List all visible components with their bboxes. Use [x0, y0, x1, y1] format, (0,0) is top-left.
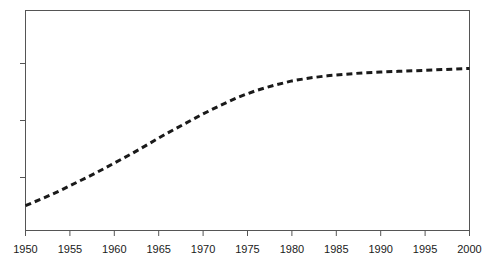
data-series-line: [26, 68, 470, 205]
x-tick-label-1980: 1980: [280, 243, 304, 255]
x-tick-label-1960: 1960: [102, 243, 126, 255]
x-tick-label-1975: 1975: [235, 243, 259, 255]
x-axis-ticks: [26, 231, 470, 237]
x-tick-label-1965: 1965: [146, 243, 170, 255]
x-tick-label-1955: 1955: [58, 243, 82, 255]
plot-frame: [26, 11, 470, 231]
x-tick-label-1990: 1990: [368, 243, 392, 255]
x-tick-label-2000: 2000: [457, 243, 481, 255]
x-tick-label-1970: 1970: [191, 243, 215, 255]
line-chart: 1950 1955 1960 1965 1970 1975 1980 1985 …: [0, 0, 487, 269]
y-axis-ticks: [20, 64, 26, 178]
x-tick-label-1995: 1995: [413, 243, 437, 255]
chart-screenshot: 1950 1955 1960 1965 1970 1975 1980 1985 …: [0, 0, 487, 269]
x-axis-tick-labels: 1950 1955 1960 1965 1970 1975 1980 1985 …: [13, 243, 481, 255]
x-tick-label-1950: 1950: [13, 243, 37, 255]
x-tick-label-1985: 1985: [324, 243, 348, 255]
